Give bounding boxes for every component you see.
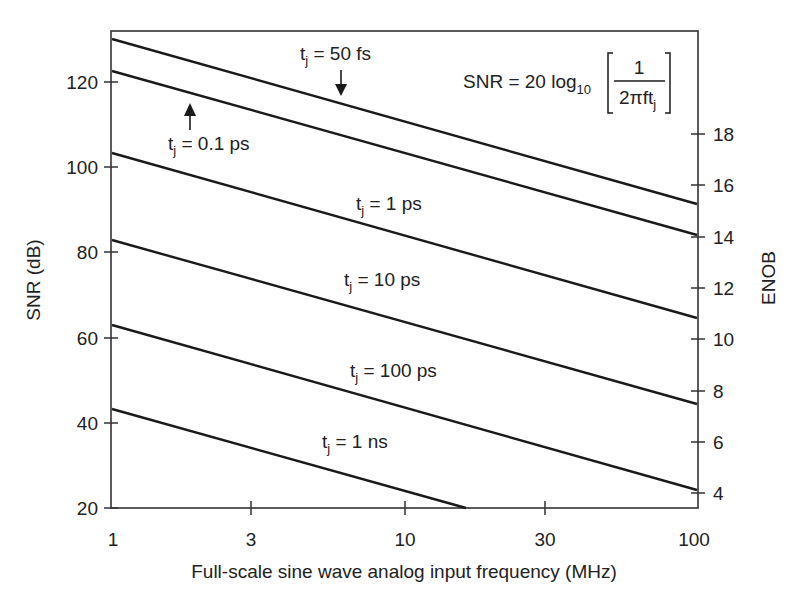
y-axis-right-labels: 4 6 8 10 12 14 16 18 (713, 124, 735, 504)
y-tick-label: 100 (66, 157, 98, 178)
x-tick-label: 10 (394, 529, 415, 550)
label-tj-1ps: tj = 1 ps (356, 193, 422, 218)
line-tj-1ps (112, 153, 697, 318)
y-axis-left-labels: 20 40 60 80 100 120 (66, 72, 98, 519)
x-tick-label: 100 (678, 529, 710, 550)
y-tick-label: 60 (77, 328, 98, 349)
snr-vs-frequency-chart: 20 40 60 80 100 120 4 6 8 10 12 14 16 18… (0, 0, 796, 601)
y2-tick-label: 16 (713, 175, 734, 196)
line-tj-50fs (112, 39, 697, 204)
y2-tick-label: 6 (713, 432, 724, 453)
x-tick-label: 1 (108, 529, 119, 550)
y2-tick-label: 12 (713, 278, 734, 299)
y-axis-title: SNR (dB) (23, 239, 44, 320)
svg-text:SNR = 20 log10: SNR = 20 log10 (463, 71, 591, 97)
label-tj-1ns: tj = 1 ns (322, 431, 388, 456)
label-tj-0.1ps: tj = 0.1 ps (168, 133, 250, 158)
y-tick-label: 40 (77, 413, 98, 434)
label-tj-10ps: tj = 10 ps (344, 269, 420, 294)
snr-formula: SNR = 20 log10 1 2πftj (463, 53, 670, 113)
y2-tick-label: 10 (713, 329, 734, 350)
label-tj-50fs: tj = 50 fs (300, 43, 371, 68)
arrow-down-icon (335, 70, 347, 96)
y2-tick-label: 4 (713, 483, 724, 504)
y-tick-label: 20 (77, 498, 98, 519)
y-tick-label: 80 (77, 242, 98, 263)
arrow-up-icon (184, 103, 196, 130)
svg-text:1: 1 (634, 57, 645, 78)
x-tick-label: 3 (246, 529, 257, 550)
x-tick-label: 30 (534, 529, 555, 550)
y-tick-label: 120 (66, 72, 98, 93)
svg-text:2πftj: 2πftj (619, 87, 656, 112)
label-tj-100ps: tj = 100 ps (350, 360, 437, 385)
y2-tick-label: 18 (713, 124, 734, 145)
line-tj-1ns (112, 409, 466, 508)
y2-tick-label: 14 (713, 227, 735, 248)
x-axis-title: Full-scale sine wave analog input freque… (191, 561, 617, 582)
y2-axis-title: ENOB (758, 251, 779, 305)
line-tj-100ps (112, 325, 697, 490)
x-axis-labels: 1 3 10 30 100 (108, 529, 710, 550)
y2-tick-label: 8 (713, 381, 724, 402)
